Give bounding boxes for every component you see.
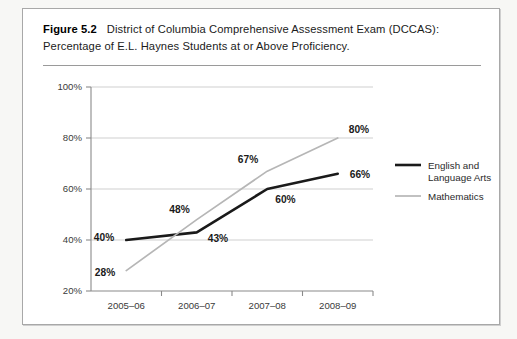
x-axis-ticks: 2005–062006–072007–082008–09	[108, 291, 373, 311]
figure-number: Figure 5.2	[43, 23, 97, 35]
svg-text:80%: 80%	[63, 132, 83, 143]
figure-caption-text: District of Columbia Comprehensive Asses…	[43, 23, 439, 52]
svg-text:100%: 100%	[57, 81, 82, 92]
figure-page: Figure 5.2District of Columbia Comprehen…	[0, 0, 517, 339]
svg-text:2006–07: 2006–07	[178, 300, 215, 311]
svg-text:English and: English and	[428, 160, 479, 171]
svg-text:60%: 60%	[63, 183, 83, 194]
chart-legend: English andLanguage ArtsMathematics	[395, 160, 491, 202]
svg-text:40%: 40%	[63, 234, 83, 245]
data-series	[126, 138, 338, 271]
line-chart: 20%40%60%80%100% 2005–062006–072007–0820…	[23, 69, 501, 324]
data-point-labels: 40%43%60%66%28%48%67%80%	[94, 124, 370, 278]
svg-text:60%: 60%	[275, 194, 295, 205]
svg-text:28%: 28%	[95, 267, 115, 278]
svg-text:43%: 43%	[208, 233, 228, 244]
svg-text:2008–09: 2008–09	[319, 300, 356, 311]
chart-svg: 20%40%60%80%100% 2005–062006–072007–0820…	[23, 69, 501, 324]
gridlines	[91, 87, 373, 240]
figure-frame: Figure 5.2District of Columbia Comprehen…	[22, 8, 500, 325]
svg-text:48%: 48%	[169, 204, 189, 215]
svg-text:Language Arts: Language Arts	[428, 172, 491, 183]
y-axis-ticks: 20%40%60%80%100%	[57, 81, 91, 296]
caption-divider	[43, 65, 481, 66]
svg-text:Mathematics: Mathematics	[428, 191, 484, 202]
svg-text:2007–08: 2007–08	[249, 300, 286, 311]
svg-text:66%: 66%	[350, 169, 370, 180]
svg-text:20%: 20%	[63, 285, 83, 296]
svg-text:67%: 67%	[238, 154, 258, 165]
figure-caption: Figure 5.2District of Columbia Comprehen…	[43, 21, 483, 54]
svg-text:40%: 40%	[94, 232, 114, 243]
svg-text:2005–06: 2005–06	[108, 300, 145, 311]
svg-text:80%: 80%	[349, 124, 369, 135]
